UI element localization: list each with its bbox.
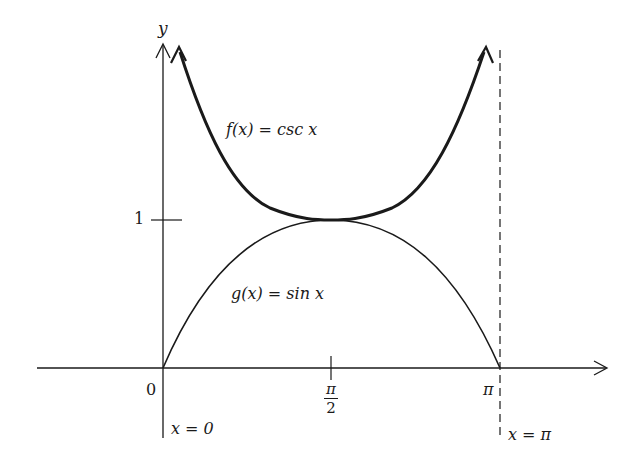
x-axis bbox=[37, 361, 607, 375]
pi-half-denominator: 2 bbox=[321, 400, 341, 416]
csc-function-label: f(x) = csc x bbox=[226, 120, 317, 139]
pi-half-numerator: π bbox=[321, 381, 341, 397]
plot-svg bbox=[0, 0, 635, 453]
origin-label: 0 bbox=[146, 380, 156, 399]
y-axis bbox=[156, 44, 170, 438]
sin-curve bbox=[163, 220, 500, 368]
chart-canvas: y 1 0 π 2 π f(x) = csc x g(x) = sin x x … bbox=[0, 0, 635, 453]
asymptote-xpi-label: x = π bbox=[508, 425, 551, 444]
sin-function-label: g(x) = sin x bbox=[231, 284, 324, 303]
y-axis-label: y bbox=[158, 18, 168, 38]
asymptote-x0-label: x = 0 bbox=[171, 419, 214, 438]
pi-label: π bbox=[483, 380, 494, 399]
pi-half-label: π 2 bbox=[321, 381, 341, 416]
y-tick-one-label: 1 bbox=[134, 209, 144, 228]
